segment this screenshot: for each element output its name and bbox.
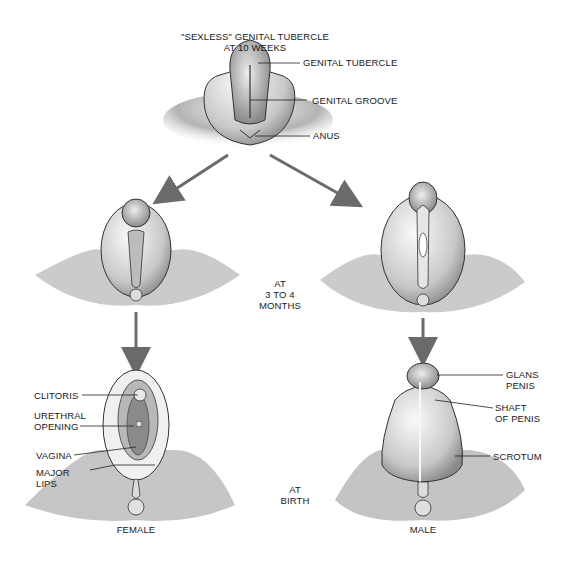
arrow-to-male [270, 155, 350, 200]
label-genital-tubercle: GENITAL TUBERCLE [303, 57, 397, 68]
label-glans-line-2: PENIS [506, 380, 535, 391]
label-glans-line-1: GLANS [506, 369, 539, 380]
male-at-birth-figure [335, 363, 525, 521]
caption-male: MALE [398, 524, 448, 535]
arrow-to-female [165, 155, 228, 196]
label-major-line-2: LIPS [36, 478, 57, 489]
label-urethral-line-2: OPENING [34, 421, 79, 432]
male-3-4-months-figure [320, 182, 525, 312]
title-line-2: AT 10 WEEKS [170, 42, 340, 53]
label-anus: ANUS [313, 130, 340, 141]
label-urethral-line-1: URETHRAL [34, 410, 86, 421]
label-clitoris: CLITORIS [34, 390, 78, 401]
caption-female: FEMALE [106, 524, 166, 535]
female-3-4-months-figure [35, 199, 240, 306]
stage-birth-line-1: AT [270, 484, 320, 495]
stage-months-line-2: 3 TO 4 [250, 289, 310, 300]
stage-months-line-1: AT [250, 278, 310, 289]
title-line-1: "SEXLESS" GENITAL TUBERCLE [170, 31, 340, 42]
label-shaft-line-1: SHAFT [495, 402, 527, 413]
stage-months-line-3: MONTHS [250, 300, 310, 311]
stage-birth-line-2: BIRTH [270, 495, 320, 506]
label-vagina: VAGINA [36, 450, 72, 461]
label-shaft-line-2: OF PENIS [495, 413, 540, 424]
label-major-line-1: MAJOR [36, 467, 70, 478]
label-scrotum: SCROTUM [493, 451, 542, 462]
label-genital-groove: GENITAL GROOVE [312, 95, 397, 106]
